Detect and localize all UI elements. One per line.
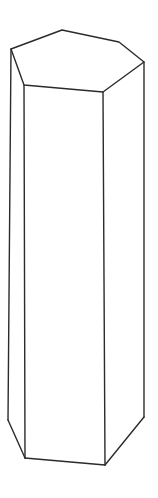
hexagonal-prism-figure: [0, 0, 158, 498]
face-front-center: [24, 85, 105, 465]
prism-drawing-svg: [0, 0, 158, 498]
face-front-right: [103, 62, 144, 465]
edge-vertical-front-left: [24, 85, 25, 458]
